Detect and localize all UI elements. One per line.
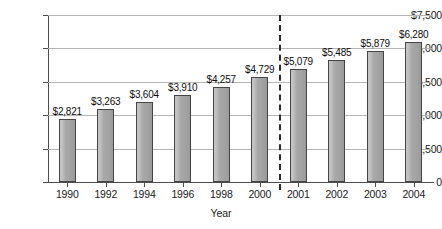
x-tick-label: 2004 [402,189,425,200]
bar [251,77,268,182]
x-tick-label: 1990 [56,189,79,200]
bar [174,95,191,182]
x-tick-mark [414,182,415,187]
bar [290,69,307,182]
x-tick-label: 2001 [287,189,310,200]
x-tick-label: 1998 [210,189,233,200]
bar [213,87,230,182]
bar-chart: 0$1,500$3,000$4,500$6,000$7,500 $2,821$3… [0,0,442,229]
x-tick-label: 2002 [325,189,348,200]
bar [97,109,114,182]
bar [405,42,422,182]
x-tick-label: 1994 [133,189,156,200]
bar-value-label: $3,604 [130,90,159,100]
x-tick-label: 2003 [364,189,387,200]
x-tick-mark [375,182,376,187]
divider-dashed-line [279,15,281,190]
bar-value-label: $4,729 [245,65,274,75]
bar [367,51,384,182]
x-tick-mark [221,182,222,187]
bar [328,60,345,182]
x-axis-title: Year [0,208,442,219]
bar-value-label: $3,910 [168,83,197,93]
x-tick-mark [260,182,261,187]
x-tick-mark [298,182,299,187]
bar-value-label: $4,257 [207,75,236,85]
bar-value-label: $5,485 [322,48,351,58]
bar [136,102,153,182]
x-tick-mark [183,182,184,187]
bar-value-label: $5,079 [284,57,313,67]
bar-value-label: $2,821 [53,107,82,117]
x-tick-label: 2000 [248,189,271,200]
x-tick-mark [144,182,145,187]
bar-value-label: $6,280 [399,30,428,40]
bar-value-label: $5,879 [361,39,390,49]
x-tick-label: 1992 [94,189,117,200]
bar [59,119,76,182]
y-tick-mark [43,182,49,183]
x-tick-label: 1996 [171,189,194,200]
bar-value-label: $3,263 [91,97,120,107]
x-tick-mark [106,182,107,187]
x-tick-mark [337,182,338,187]
x-tick-mark [67,182,68,187]
